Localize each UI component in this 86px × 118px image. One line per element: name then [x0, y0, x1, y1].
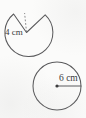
geometry-figure: 4 cm 6 cm — [0, 0, 86, 118]
center-point-dot — [55, 84, 58, 87]
bottom-shape-group — [33, 62, 81, 110]
figure-canvas: 4 cm 6 cm — [0, 0, 86, 118]
dashed-radius-line-top — [25, 13, 27, 32]
top-radius-label: 4 cm — [5, 27, 23, 37]
bottom-radius-label: 6 cm — [59, 73, 78, 83]
